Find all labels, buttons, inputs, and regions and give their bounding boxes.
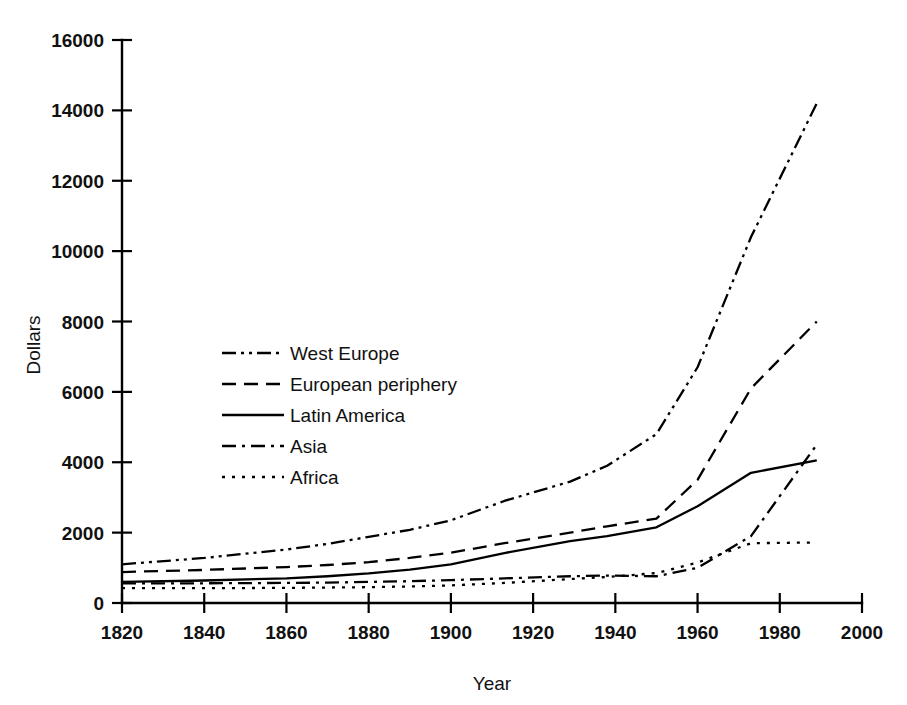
line-chart: Dollars Year 020004000600080001000012000… bbox=[0, 0, 907, 705]
legend-label-west-europe: West Europe bbox=[290, 343, 399, 364]
x-tick-label: 1940 bbox=[594, 622, 636, 643]
x-tick-label: 1980 bbox=[759, 622, 801, 643]
y-tick-label: 0 bbox=[93, 593, 104, 614]
data-series bbox=[122, 103, 817, 588]
series-line-west-europe bbox=[122, 103, 817, 564]
x-tick-labels: 1820184018601880190019201940196019802000 bbox=[101, 622, 883, 643]
y-axis: 0200040006000800010000120001400016000 bbox=[51, 30, 132, 614]
y-tick-label: 8000 bbox=[62, 312, 104, 333]
y-tick-label: 2000 bbox=[62, 523, 104, 544]
legend-label-asia: Asia bbox=[290, 436, 327, 457]
y-tick-label: 10000 bbox=[51, 241, 104, 262]
x-tick-label: 1860 bbox=[265, 622, 307, 643]
series-line-latin-america bbox=[122, 460, 817, 581]
x-tick-label: 1840 bbox=[183, 622, 225, 643]
x-tick-label: 1920 bbox=[512, 622, 554, 643]
x-tick-label: 2000 bbox=[841, 622, 883, 643]
x-tick-label: 1820 bbox=[101, 622, 143, 643]
legend-label-africa: Africa bbox=[290, 467, 339, 488]
legend-label-european-periphery: European periphery bbox=[290, 374, 457, 395]
y-tick-label: 4000 bbox=[62, 452, 104, 473]
y-axis-title: Dollars bbox=[23, 315, 44, 374]
x-axis-title: Year bbox=[473, 673, 512, 694]
x-axis: 1820184018601880190019201940196019802000 bbox=[101, 593, 883, 643]
y-tick-labels: 0200040006000800010000120001400016000 bbox=[51, 30, 104, 614]
x-tick-label: 1960 bbox=[676, 622, 718, 643]
y-tick-label: 12000 bbox=[51, 171, 104, 192]
x-tick-label: 1900 bbox=[430, 622, 472, 643]
chart-container: Dollars Year 020004000600080001000012000… bbox=[0, 0, 907, 705]
x-tick-label: 1880 bbox=[348, 622, 390, 643]
series-line-africa bbox=[122, 542, 817, 588]
y-tick-label: 16000 bbox=[51, 30, 104, 51]
y-tick-label: 6000 bbox=[62, 382, 104, 403]
legend-label-latin-america: Latin America bbox=[290, 405, 406, 426]
y-tick-label: 14000 bbox=[51, 100, 104, 121]
chart-legend: West EuropeEuropean peripheryLatin Ameri… bbox=[222, 343, 457, 488]
